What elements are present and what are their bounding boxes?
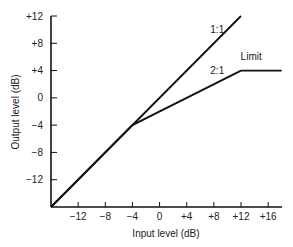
annotation-limit: Limit: [241, 51, 262, 62]
y-tick-label: −4: [32, 120, 44, 131]
x-tick-label: +4: [181, 211, 193, 222]
compressor-transfer-chart: −12−8−40+4+8+12+16+12+8+40−4−8−12 1:12:1…: [0, 0, 293, 247]
x-axis-title: Input level (dB): [132, 228, 199, 239]
y-tick-label: 0: [37, 92, 43, 103]
x-tick-label: 0: [157, 211, 163, 222]
x-tick-label: +8: [208, 211, 220, 222]
annotation-1-to-1: 1:1: [210, 24, 224, 35]
y-tick-label: −12: [26, 174, 43, 185]
annotations: 1:12:1Limit: [210, 24, 262, 76]
y-tick-label: +8: [32, 38, 44, 49]
x-tick-label: −4: [127, 211, 139, 222]
x-tick-label: +12: [233, 211, 250, 222]
x-tick-label: −12: [70, 211, 87, 222]
series-line-2-to-1: [51, 71, 241, 207]
x-tick-label: +16: [260, 211, 277, 222]
axes: [51, 16, 282, 207]
y-tick-label: +12: [26, 11, 43, 22]
x-tick-label: −8: [100, 211, 112, 222]
y-axis-title: Output level (dB): [10, 74, 21, 149]
series-lines: [51, 16, 282, 207]
y-tick-label: +4: [32, 65, 44, 76]
y-tick-label: −8: [32, 147, 44, 158]
annotation-2-to-1: 2:1: [210, 65, 224, 76]
